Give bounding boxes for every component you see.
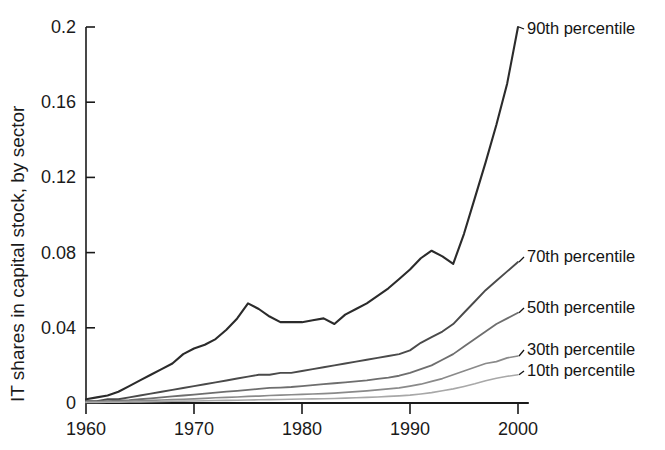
chart-container: IT shares in capital stock, by sector 00… — [0, 0, 665, 450]
series-leader-line — [519, 257, 524, 262]
series-label-90th: 90th percentile — [527, 19, 635, 37]
line-chart-plot: IT shares in capital stock, by sector 00… — [0, 0, 665, 450]
y-tick-label: 0.16 — [41, 92, 76, 112]
y-axis-title-group: IT shares in capital stock, by sector — [7, 105, 28, 402]
series-label-50th: 50th percentile — [527, 298, 635, 316]
y-tick-label: 0.04 — [41, 318, 76, 338]
y-tick-label: 0.2 — [51, 17, 76, 37]
y-tick-label: 0 — [66, 393, 76, 413]
series-lines — [86, 27, 518, 402]
x-tick-label: 2000 — [498, 419, 538, 439]
axis-lines — [86, 27, 529, 414]
y-tick-label: 0.08 — [41, 243, 76, 263]
x-tick-label: 1970 — [174, 419, 214, 439]
series-line-30th — [86, 356, 518, 402]
y-axis-title: IT shares in capital stock, by sector — [7, 105, 28, 402]
series-leader-line — [519, 308, 524, 313]
series-line-70th — [86, 262, 518, 401]
x-tick-label: 1990 — [390, 419, 430, 439]
series-annotations: 90th percentile70th percentile50th perce… — [519, 19, 635, 379]
y-axis-tick-labels: 00.040.080.120.160.2 — [41, 17, 76, 413]
series-label-10th: 10th percentile — [527, 361, 635, 379]
series-label-30th: 30th percentile — [527, 340, 635, 358]
x-axis-tick-labels: 19601970198019902000 — [66, 419, 538, 439]
x-tick-label: 1980 — [282, 419, 322, 439]
series-line-90th — [86, 27, 518, 399]
series-leader-line — [519, 350, 524, 356]
series-label-70th: 70th percentile — [527, 247, 635, 265]
series-leader-line — [519, 27, 524, 29]
x-tick-label: 1960 — [66, 419, 106, 439]
y-tick-label: 0.12 — [41, 167, 76, 187]
series-leader-line — [519, 371, 524, 375]
